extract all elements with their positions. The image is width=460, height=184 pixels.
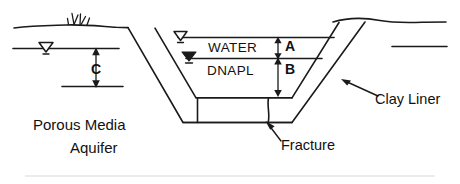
clay-liner-label: Clay Liner: [375, 92, 440, 107]
clay-liner-callout-leader: [341, 79, 378, 96]
water-table-open-triangle-icon: [174, 32, 187, 41]
ground-surface-left-line: [14, 25, 128, 28]
ground-surface-group: [14, 18, 446, 28]
grass-tuft-icon: [68, 14, 90, 26]
water-layer-label: WATER: [208, 41, 257, 55]
dimension-a-label: A: [285, 39, 295, 53]
water-table-open-triangle-icon: [39, 43, 53, 53]
dimension-b-arrow: [274, 58, 282, 98]
dimension-c-label: C: [91, 62, 101, 76]
dimension-b-label: B: [285, 62, 295, 76]
fracture-line: [268, 98, 269, 122]
fracture-label: Fracture: [281, 138, 335, 153]
outer-water-table-group: [13, 43, 119, 55]
dnapl-trench-diagram: WATER DNAPL A B C Clay Liner Fracture Po…: [0, 0, 460, 184]
dnapl-layer-label: DNAPL: [207, 64, 254, 78]
fracture-group: [198, 98, 269, 122]
dnapl-interface-solid-triangle-icon: [182, 52, 196, 61]
fracture-callout-leader: [266, 121, 282, 141]
clay-liner-right-inner-wall: [292, 23, 339, 98]
ground-surface-right-line: [333, 18, 446, 22]
porous-media-label: Porous Media: [33, 117, 126, 132]
dnapl-interface-symbol: [182, 52, 196, 63]
dimension-a-arrow: [274, 37, 281, 60]
aquifer-label: Aquifer: [70, 140, 118, 155]
